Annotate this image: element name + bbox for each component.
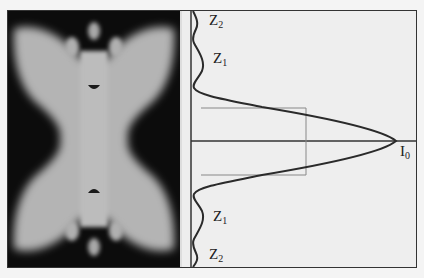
label-i0-peak: I0 [400, 144, 410, 161]
intensity-pattern-image [8, 11, 180, 267]
label-z2-top: Z2 [209, 13, 223, 30]
figure-frame: Z2 Z1 I0 Z1 Z2 [7, 10, 417, 268]
intensity-curve [193, 11, 396, 267]
label-z1-top: Z1 [213, 51, 227, 68]
label-z1-bottom: Z1 [213, 209, 227, 226]
butterfly-pattern-graphic [8, 11, 180, 267]
label-z2-bottom: Z2 [209, 247, 223, 264]
